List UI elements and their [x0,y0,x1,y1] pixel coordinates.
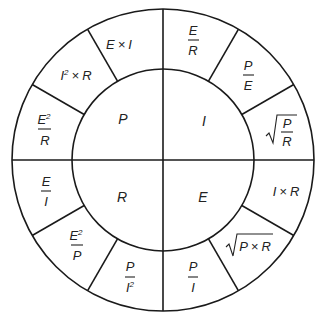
svg-text:E: E [244,78,253,93]
svg-text:I2×R: I2×R [60,68,91,83]
formula-i-times-r: I×R [273,184,300,199]
svg-text:P: P [283,116,292,131]
svg-text:R: R [40,133,49,148]
svg-text:I: I [44,194,48,209]
svg-text:E: E [42,174,51,189]
formula-p-over-i2: P I2 [125,259,135,295]
svg-text:E×I: E×I [106,37,132,52]
svg-text:I: I [191,280,195,295]
svg-text:E2: E2 [69,228,83,243]
spoke-300 [209,239,239,291]
formula-i2-times-r: I2×R [60,68,91,83]
svg-text:I2: I2 [126,280,135,295]
svg-text:R: R [282,134,291,149]
spoke-60 [209,29,239,81]
formula-sqrt-p-over-r: P R [266,115,297,149]
formula-p-over-e: P E [243,58,254,93]
svg-text:P: P [126,259,135,274]
ohms-law-wheel: P I R E E×I I2×R E2 R E R P E P R E I [0,0,320,321]
formula-e-times-i: E×I [106,37,132,52]
svg-text:R: R [188,43,197,58]
svg-text:P: P [244,58,253,73]
formula-e2-over-p: E2 P [69,228,83,263]
spoke-330 [242,206,294,236]
svg-text:P: P [189,259,198,274]
svg-text:P×R: P×R [239,239,271,254]
formula-e2-over-r: E2 R [37,112,51,148]
quadrant-voltage-symbol: E [198,189,208,205]
svg-text:E: E [189,23,198,38]
quadrant-current-symbol: I [202,113,206,129]
quadrant-resistance-symbol: R [117,189,127,205]
formula-e-over-r: E R [188,23,199,58]
formula-e-over-i: E I [41,174,51,209]
svg-text:P: P [73,248,82,263]
quadrant-power-symbol: P [118,111,128,127]
spoke-150 [32,85,84,115]
formula-p-over-i: P I [188,259,198,295]
formula-sqrt-p-times-r: P×R [226,234,273,256]
svg-text:I×R: I×R [273,184,300,199]
svg-text:E2: E2 [37,112,51,127]
spoke-240 [88,239,118,291]
